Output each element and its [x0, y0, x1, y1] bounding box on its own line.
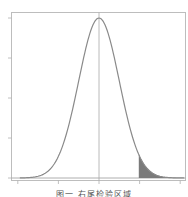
- y-axis-ticks: [8, 18, 12, 178]
- normal-distribution-chart: [0, 0, 188, 197]
- figure-caption: 图一 右尾检验区域: [0, 188, 188, 197]
- x-axis-ticks: [18, 181, 180, 185]
- plot-frame: [12, 13, 186, 181]
- density-curve: [20, 18, 184, 178]
